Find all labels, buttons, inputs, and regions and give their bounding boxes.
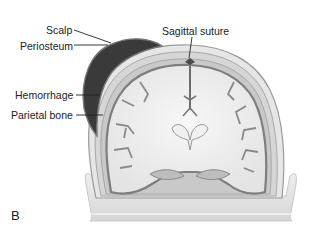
label-periosteum: Periosteum xyxy=(20,40,73,52)
panel-letter: B xyxy=(11,208,20,223)
label-parietal-bone: Parietal bone xyxy=(11,109,73,121)
label-scalp: Scalp xyxy=(46,24,72,36)
label-sagittal-suture: Sagittal suture xyxy=(162,25,229,37)
label-hemorrhage: Hemorrhage xyxy=(15,89,73,101)
cephalohematoma-diagram: Scalp Periosteum Hemorrhage Parietal bon… xyxy=(0,0,312,233)
